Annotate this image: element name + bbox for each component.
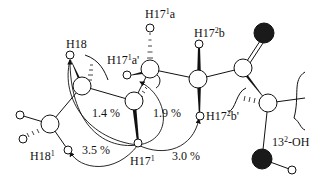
atom-c17-1 bbox=[141, 60, 159, 78]
atom-h17-2b bbox=[195, 40, 203, 48]
label-h17-2b-prime: H172b' bbox=[206, 109, 239, 123]
noe-value-3-5: 3.5 % bbox=[82, 143, 110, 157]
label-h17-1: H171 bbox=[130, 154, 155, 168]
atom-h18-1-c bbox=[19, 135, 27, 143]
atom-o-carbonyl bbox=[254, 23, 274, 43]
label-13-2-oh: 132-OH bbox=[272, 135, 310, 149]
label-h18-1: H181 bbox=[30, 149, 55, 163]
label-h17-2b: H172b bbox=[194, 26, 225, 40]
atom-hydroxyl-h bbox=[288, 166, 296, 174]
noe-value-1-4: 1.4 % bbox=[92, 106, 120, 120]
noe-value-1-9: 1.9 % bbox=[153, 106, 181, 120]
noe-molecular-diagram: H18 H171a H171a' H172b H172b' H181 H171 … bbox=[0, 0, 329, 184]
atom-c13-1 bbox=[234, 59, 252, 77]
atom-h18 bbox=[66, 51, 74, 59]
label-h17-1a: H171a bbox=[145, 7, 176, 21]
atom-h18-1 bbox=[64, 146, 72, 154]
atom-c13-2 bbox=[259, 94, 277, 112]
label-h18: H18 bbox=[66, 37, 87, 51]
atom-h18-1-b bbox=[16, 111, 24, 119]
atom-h17-1a bbox=[146, 24, 154, 32]
noe-value-3-0: 3.0 % bbox=[172, 149, 200, 163]
atom-c17-2 bbox=[189, 70, 207, 88]
atoms bbox=[16, 23, 296, 174]
atom-c18 bbox=[73, 77, 91, 95]
atom-c18-1 bbox=[41, 115, 59, 133]
label-h17-1a-prime: H171a' bbox=[107, 53, 139, 67]
atom-o-hydroxyl bbox=[252, 149, 272, 169]
atom-h17-1a-prime bbox=[123, 71, 131, 79]
atom-h17-2b-prime bbox=[196, 112, 204, 120]
atom-c17 bbox=[125, 92, 143, 110]
noe-arc-h17-1-h17-2b-prime bbox=[138, 119, 199, 151]
atom-h17-1 bbox=[134, 139, 142, 147]
